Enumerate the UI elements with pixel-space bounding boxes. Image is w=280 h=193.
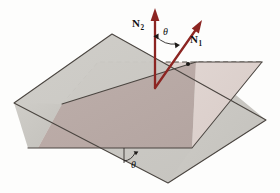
vector-N2-label: N	[132, 17, 140, 29]
vector-N1-label: N	[190, 33, 198, 45]
vector-N1-subscript: 1	[199, 40, 203, 48]
vector-N2-arrowhead	[151, 8, 160, 21]
dihedral-angle-label: θ	[131, 159, 136, 170]
normals-angle-label: θ	[163, 26, 168, 37]
vector-N2-subscript: 2	[141, 24, 145, 32]
geometry-diagram: θ θ N 2 N 1	[0, 0, 280, 193]
intersection-vertex-dot	[186, 62, 190, 66]
figure-container: θ θ N 2 N 1	[0, 0, 280, 193]
